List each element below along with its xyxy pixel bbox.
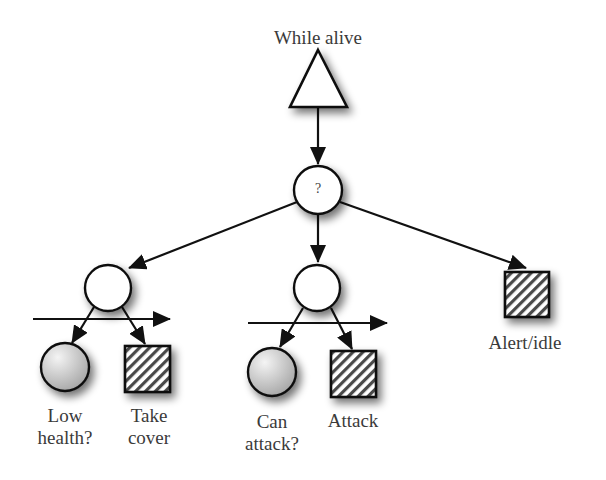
take-cover-label-line1: Take	[104, 405, 194, 427]
edge-selector-to-sequence-1	[129, 202, 297, 268]
action-attack	[331, 351, 376, 397]
can-attack-label-line1: Can	[227, 411, 317, 433]
alert-idle-label: Alert/idle	[475, 332, 575, 354]
low-health-label-line2: health?	[20, 427, 110, 449]
low-health-label-line1: Low	[20, 405, 110, 427]
root-loop-triangle	[290, 50, 347, 107]
attack-label: Attack	[308, 410, 398, 432]
selector-symbol: ?	[308, 181, 328, 197]
can-attack-label: Can attack?	[227, 411, 317, 455]
low-health-label: Low health?	[20, 405, 110, 449]
attack-label-line1: Attack	[308, 410, 398, 432]
take-cover-label-line2: cover	[104, 427, 194, 449]
root-label: While alive	[255, 27, 381, 49]
can-attack-label-line2: attack?	[227, 433, 317, 455]
condition-low-health	[41, 343, 89, 391]
take-cover-label: Take cover	[104, 405, 194, 449]
edge-seq2-to-can-attack	[280, 308, 303, 347]
edges	[33, 108, 526, 349]
sequence-node-1	[85, 265, 131, 311]
action-alert-idle	[505, 272, 549, 317]
action-take-cover	[125, 346, 170, 392]
edge-seq1-to-low-health	[72, 307, 94, 343]
edge-selector-to-alert	[340, 202, 526, 268]
edge-seq1-to-take-cover	[122, 307, 145, 344]
edge-seq2-to-attack	[331, 308, 352, 349]
sequence-node-2	[294, 265, 340, 311]
condition-can-attack	[248, 348, 296, 396]
